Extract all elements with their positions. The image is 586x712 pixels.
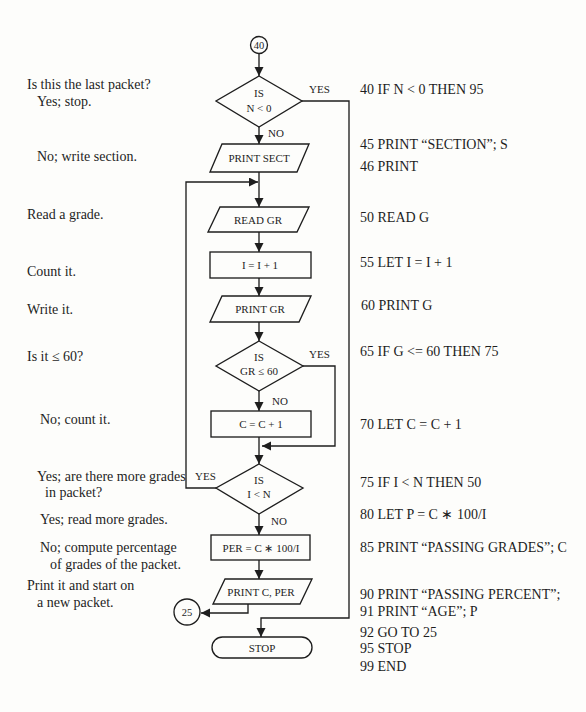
compute-per-label: PER = C ∗ 100/I — [223, 542, 300, 554]
decision-line2: N < 0 — [246, 102, 272, 114]
annotations-column: Is this the last packet? Yes; stop. No; … — [27, 77, 186, 610]
annotation-line: a new packet. — [37, 595, 114, 610]
read-gr-io: READ GR — [208, 207, 309, 232]
end-connector: 25 — [174, 599, 200, 625]
decision-grade: IS GR ≤ 60 — [216, 341, 303, 391]
program-line: 92 GO TO 25 — [360, 625, 437, 640]
program-line: 85 PRINT “PASSING GRADES”; C — [360, 540, 567, 555]
increment-c-label: C = C + 1 — [239, 418, 283, 430]
program-line: 99 END — [360, 659, 406, 674]
program-line: 60 PRINT G — [361, 298, 432, 313]
program-line: 40 IF N < 0 THEN 95 — [360, 82, 484, 97]
annotation-line: Is it ≤ 60? — [27, 349, 83, 364]
annotation-line: Yes; are there more grades — [37, 469, 186, 484]
decision-line2: GR ≤ 60 — [240, 365, 278, 377]
decision-more-yes-label: YES — [195, 470, 216, 482]
annotation-line: Read a grade. — [27, 207, 104, 222]
stop-label: STOP — [249, 642, 276, 654]
program-line: 45 PRINT “SECTION”; S — [360, 137, 508, 152]
increment-i-label: I = I + 1 — [242, 259, 278, 271]
annotation-line: No; compute percentage — [40, 540, 177, 555]
decision-last-packet-yes-label: YES — [309, 83, 330, 95]
annotation-line: Print it and start on — [27, 578, 134, 593]
program-listing: 40 IF N < 0 THEN 95 45 PRINT “SECTION”; … — [360, 82, 567, 674]
decision-line2: I < N — [247, 488, 270, 500]
compute-per-process: PER = C ∗ 100/I — [211, 535, 310, 560]
end-connector-label: 25 — [182, 607, 193, 618]
annotation-line: Is this the last packet? — [27, 77, 151, 92]
decision-grade-no-label: NO — [272, 395, 288, 407]
print-c-per-io: PRINT C, PER — [213, 579, 312, 604]
program-line: 70 LET C = C + 1 — [360, 417, 462, 432]
print-sect-label: PRINT SECT — [228, 152, 290, 164]
annotation-line: of grades of the packet. — [50, 557, 181, 572]
annotation-line: Yes; read more grades. — [40, 512, 168, 527]
program-line: 90 PRINT “PASSING PERCENT”; — [360, 587, 560, 602]
decision-last-packet: IS N < 0 — [216, 76, 302, 127]
print-c-per-label: PRINT C, PER — [227, 586, 295, 598]
program-line: 55 LET I = I + 1 — [360, 255, 453, 270]
decision-grade-yes-label: YES — [309, 348, 330, 360]
stop-terminal: STOP — [212, 637, 312, 658]
print-sect-io: PRINT SECT — [210, 144, 309, 172]
program-line: 91 PRINT “AGE”; P — [360, 604, 478, 619]
annotation-line: No; write section. — [37, 149, 137, 164]
program-line: 80 LET P = C ∗ 100/I — [360, 507, 487, 522]
start-connector: 40 — [251, 37, 268, 54]
arrow-to-connector-25 — [201, 604, 248, 613]
annotation-line: No; count it. — [40, 412, 110, 427]
page: 40 IS N < 0 YES NO PRINT SECT READ GR I … — [0, 0, 586, 712]
print-gr-io: PRINT GR — [210, 296, 311, 322]
increment-i-process: I = I + 1 — [210, 252, 311, 278]
annotation-line: Yes; stop. — [37, 94, 92, 109]
program-line: 46 PRINT — [360, 159, 418, 174]
program-line: 65 IF G <= 60 THEN 75 — [360, 344, 498, 359]
annotation-line: Write it. — [27, 302, 73, 317]
read-gr-label: READ GR — [234, 214, 283, 226]
print-gr-label: PRINT GR — [235, 303, 285, 315]
decision-last-packet-no-label: NO — [268, 127, 284, 139]
decision-line1: IS — [254, 351, 264, 363]
decision-line1: IS — [254, 87, 264, 99]
program-line: 50 READ G — [360, 210, 429, 225]
annotation-line: in packet? — [45, 485, 102, 500]
program-line: 95 STOP — [360, 641, 412, 656]
increment-c-process: C = C + 1 — [211, 411, 311, 437]
decision-more-no-label: NO — [271, 515, 287, 527]
program-line: 75 IF I < N THEN 50 — [360, 475, 481, 490]
annotation-line: Count it. — [27, 264, 76, 279]
decision-more-grades: IS I < N — [216, 464, 303, 514]
flowchart-diagram: 40 IS N < 0 YES NO PRINT SECT READ GR I … — [0, 0, 586, 712]
start-connector-label: 40 — [254, 40, 265, 51]
decision-line1: IS — [254, 474, 264, 486]
